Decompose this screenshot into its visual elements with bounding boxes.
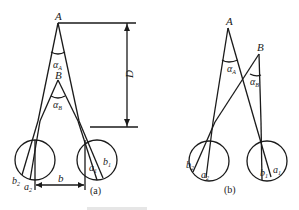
point-b-label: B xyxy=(257,41,264,53)
retina-a2-label: a2 xyxy=(201,169,209,181)
panel-a-caption: (a) xyxy=(90,185,101,197)
retina-b1-label: b1 xyxy=(103,156,111,168)
panel-b xyxy=(189,28,287,181)
angle-b-label: αB xyxy=(250,76,259,88)
diagram-canvas: A B αA αB D b b2 a2 a1 b1 (a) A B αA αB … xyxy=(0,0,299,210)
faint-caption xyxy=(87,207,147,210)
retina-a1-label: a1 xyxy=(89,162,97,174)
retina-a2-label: a2 xyxy=(24,181,32,193)
retina-b1-label: b1 xyxy=(260,167,268,179)
retina-b2-label: b2 xyxy=(12,175,20,187)
retina-a1-label: a1 xyxy=(273,164,281,176)
left-eye xyxy=(189,141,229,181)
angle-b-label: αB xyxy=(53,99,62,111)
stereo-vision-figure: A B αA αB D b b2 a2 a1 b1 (a) A B αA αB … xyxy=(0,0,299,210)
point-a-label: A xyxy=(225,15,233,27)
retina-b2-label: b2 xyxy=(186,159,194,171)
angle-a-label: αA xyxy=(53,59,62,71)
baseline-label: b xyxy=(58,172,64,184)
angle-a-label: αA xyxy=(227,63,236,75)
right-eye xyxy=(77,140,117,180)
panel-b-caption: (b) xyxy=(224,184,236,196)
panel-a xyxy=(15,23,138,190)
distance-label: D xyxy=(123,70,135,79)
point-a-label: A xyxy=(54,10,62,22)
